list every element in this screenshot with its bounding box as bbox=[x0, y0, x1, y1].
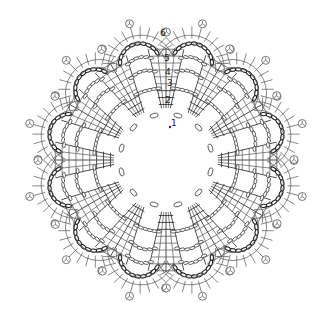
chain-arch-stitch bbox=[178, 260, 184, 264]
chain-arch-stitch bbox=[121, 99, 127, 105]
chain-arch-stitch bbox=[227, 238, 233, 244]
picot-icon bbox=[162, 284, 170, 292]
chain-arch-stitch bbox=[234, 103, 240, 109]
stitch-spokes bbox=[54, 48, 278, 272]
chain-arch-stitch bbox=[62, 172, 66, 178]
picot-icon bbox=[62, 256, 70, 264]
chain-arch-stitch bbox=[84, 226, 90, 232]
chain-arch-stitch bbox=[109, 86, 115, 92]
center-chain-ring bbox=[118, 112, 213, 207]
chain-stitch bbox=[75, 218, 81, 225]
chain-arch-stitch bbox=[109, 228, 115, 234]
chain-arch-stitch bbox=[76, 168, 79, 174]
picot-icon bbox=[298, 192, 306, 200]
picot-icon bbox=[98, 267, 106, 275]
chain-arch-stitch bbox=[99, 238, 105, 244]
picot-icon bbox=[26, 192, 34, 200]
chain-arch-stitch bbox=[148, 56, 154, 60]
chain-arch-stitch bbox=[152, 70, 158, 73]
picot-icon bbox=[226, 267, 234, 275]
picot-icon bbox=[198, 20, 206, 28]
chain-arch-stitch bbox=[104, 88, 110, 94]
chain-arch-stitch bbox=[232, 236, 238, 242]
picot-icon bbox=[198, 292, 206, 300]
picot-icon bbox=[34, 156, 42, 164]
chain-arch-stitch bbox=[94, 78, 100, 84]
picot-icon bbox=[126, 292, 134, 300]
round-label-3: 3 bbox=[167, 78, 173, 88]
chain-arch-stitch bbox=[232, 98, 238, 104]
chain-loop-icon bbox=[129, 123, 138, 132]
chain-loop-icon bbox=[129, 188, 138, 197]
chain-arch-stitch bbox=[222, 226, 228, 232]
picot-icon bbox=[62, 56, 70, 64]
chain-arch-stitch bbox=[227, 76, 233, 82]
chain-arch-stitch bbox=[234, 211, 240, 217]
chain-arch-stitch bbox=[174, 247, 180, 250]
picot-icon bbox=[290, 156, 298, 164]
chain-stitch bbox=[101, 69, 108, 75]
chain-arch-stitch bbox=[92, 103, 98, 109]
chain-arch-stitch bbox=[266, 142, 270, 148]
picot-icon bbox=[126, 20, 134, 28]
chain-loop-icon bbox=[118, 167, 124, 176]
chain-loop-icon bbox=[207, 143, 213, 152]
chain-loop-icon bbox=[173, 201, 182, 207]
chain-arch-stitch bbox=[244, 93, 250, 99]
chain-arch-stitch bbox=[222, 115, 228, 121]
round-label-6: 6 bbox=[160, 28, 166, 38]
chain-arch-stitch bbox=[68, 119, 73, 125]
chain-loop-icon bbox=[118, 143, 124, 152]
round-label-2: 2 bbox=[165, 95, 171, 105]
chain-arch-stitch bbox=[99, 76, 105, 82]
picot-icon bbox=[51, 220, 59, 228]
picot-icon bbox=[226, 45, 234, 53]
picot-icon bbox=[273, 220, 281, 228]
chain-loop-icon bbox=[149, 112, 158, 118]
picot-icon bbox=[273, 92, 281, 100]
picot-icon bbox=[298, 120, 306, 128]
chain-arch-stitch bbox=[92, 211, 98, 217]
chain-loop-icon bbox=[149, 201, 158, 207]
chain-arch-stitch bbox=[82, 93, 88, 99]
round-label-4: 4 bbox=[165, 67, 171, 77]
picot-icon bbox=[51, 92, 59, 100]
chain-stitch bbox=[224, 246, 231, 252]
chain-arch-stitch bbox=[236, 150, 239, 156]
chain-arch-stitch bbox=[242, 88, 248, 94]
chain-arch-stitch bbox=[259, 195, 264, 201]
chain-arch-stitch bbox=[217, 86, 223, 92]
chain-arch-stitch bbox=[94, 216, 100, 222]
chain-arch-stitch bbox=[205, 216, 211, 222]
start-marker-icon bbox=[169, 126, 171, 128]
chain-arch-stitch bbox=[93, 164, 96, 170]
chain-arch-stitch bbox=[82, 221, 88, 227]
chain-arch-stitch bbox=[170, 230, 176, 233]
chain-arch-stitch bbox=[244, 221, 250, 227]
round-label-1: 1 bbox=[171, 118, 177, 128]
round-label-5: 5 bbox=[164, 53, 170, 63]
picot-icon bbox=[262, 56, 270, 64]
chain-arch-stitch bbox=[253, 146, 256, 152]
chain-loop-icon bbox=[194, 188, 203, 197]
chain-arch-stitch bbox=[125, 253, 131, 258]
chain-arch-stitch bbox=[156, 87, 162, 90]
chain-arch-stitch bbox=[201, 62, 207, 67]
chain-loop-icon bbox=[207, 167, 213, 176]
crochet-doily-diagram: 1 2 3 4 5 6 bbox=[0, 0, 332, 318]
chain-arch-stitch bbox=[105, 199, 111, 205]
chain-arch-stitch bbox=[217, 228, 223, 234]
picot-icon bbox=[98, 45, 106, 53]
chain-loop-icon bbox=[194, 123, 203, 132]
picot-icon bbox=[26, 120, 34, 128]
picot-icon bbox=[262, 256, 270, 264]
chain-stitch bbox=[252, 95, 258, 102]
